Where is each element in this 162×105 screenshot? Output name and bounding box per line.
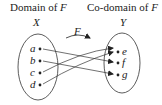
dot-e: [117, 51, 120, 54]
dot-g: [117, 74, 120, 77]
element-c: c: [30, 66, 35, 78]
element-a: a: [30, 42, 36, 54]
function-arrow: [66, 35, 90, 38]
mapping-d-e: [43, 52, 113, 84]
element-f: f: [122, 56, 125, 68]
element-g: g: [122, 68, 128, 80]
element-b: b: [30, 54, 36, 66]
dot-b: [39, 60, 42, 63]
dot-f: [117, 62, 120, 65]
mapping-b-g: [43, 61, 113, 74]
mapping-diagram: [0, 0, 162, 105]
dot-c: [39, 72, 42, 75]
dot-a: [39, 48, 42, 51]
dot-d: [39, 84, 42, 87]
element-d: d: [30, 78, 36, 90]
